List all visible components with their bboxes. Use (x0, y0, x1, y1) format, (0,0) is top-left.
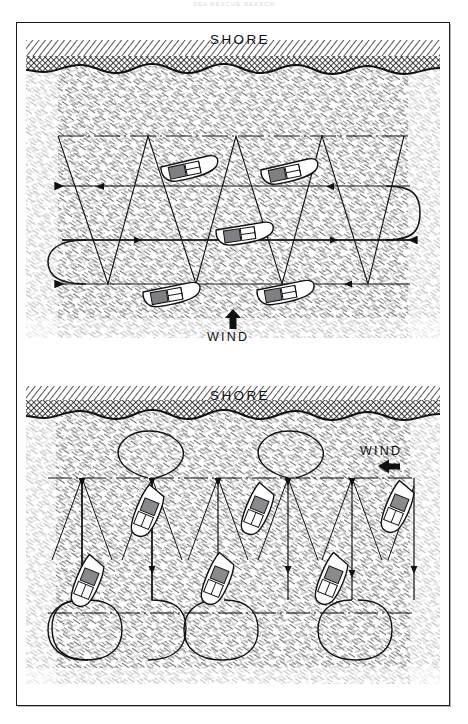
upper-wind-label: WIND (207, 330, 249, 344)
lower-shore-label: SHORE (210, 388, 270, 403)
lower-wind-label: WIND (360, 444, 402, 458)
upper-water (26, 66, 440, 338)
upper-shore-label: SHORE (210, 32, 270, 47)
diagram-svg (0, 0, 468, 724)
page-canvas: SEA RESCUE SEARCH (0, 0, 468, 724)
figures-layer (0, 0, 468, 724)
upper-diagram-group (26, 40, 440, 338)
lower-diagram-group (26, 386, 440, 686)
